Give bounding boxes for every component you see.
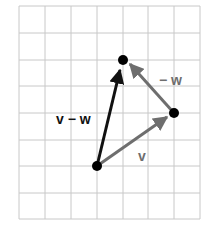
label-v-minus-w: v − w (56, 111, 91, 127)
point-origin (92, 161, 102, 171)
point-v-tip (169, 108, 179, 118)
label-v: v (138, 148, 146, 164)
vector-subtraction-diagram: v − w − w v (0, 0, 209, 238)
point-v-minus-w-tip (118, 55, 128, 65)
label-neg-w: − w (159, 72, 182, 88)
